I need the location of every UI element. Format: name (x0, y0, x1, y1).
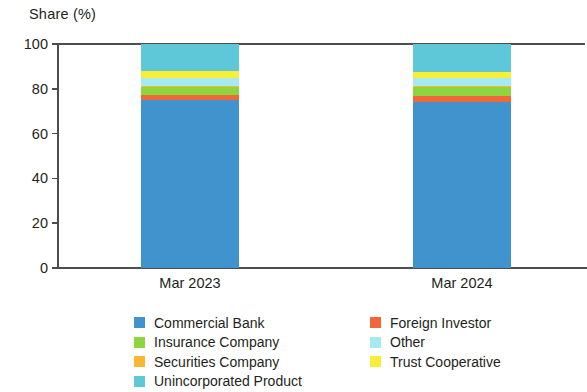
y-axis-tick-label: 60 (4, 126, 48, 142)
legend-swatch-icon (134, 317, 145, 328)
x-axis-tick-label: Mar 2024 (382, 275, 542, 291)
y-axis-tick-label: 80 (4, 81, 48, 97)
legend-item[interactable]: Other (370, 333, 574, 353)
bar-segment-trust-cooperative (141, 71, 239, 78)
y-axis-tick-label: 0 (4, 260, 48, 276)
bar-segment-commercial-bank (141, 100, 239, 268)
legend-swatch-icon (370, 356, 381, 367)
legend-column-right: Foreign InvestorOtherTrust Cooperative (370, 313, 574, 372)
legend-item[interactable]: Securities Company (134, 352, 364, 372)
legend-item-label: Securities Company (154, 355, 279, 369)
x-axis-tick-label: Mar 2023 (110, 275, 270, 291)
legend-item[interactable]: Foreign Investor (370, 313, 574, 333)
legend-item-label: Commercial Bank (154, 316, 264, 330)
bar-segment-insurance-company (413, 87, 511, 96)
legend-swatch-icon (134, 337, 145, 348)
y-axis-tick-label: 100 (4, 36, 48, 52)
bar-segment-insurance-company (141, 87, 239, 95)
bar-mar-2024 (413, 44, 511, 268)
legend-item-label: Trust Cooperative (390, 355, 501, 369)
bar-segment-other (141, 78, 239, 86)
y-axis-tick-label: 20 (4, 215, 48, 231)
legend-item[interactable]: Insurance Company (134, 333, 364, 353)
y-axis-tick-labels: 020406080100 (0, 0, 48, 392)
bar-segment-trust-cooperative (413, 72, 511, 78)
legend-swatch-icon (370, 337, 381, 348)
y-axis-tick (52, 178, 58, 180)
bar-segment-foreign-investor (413, 96, 511, 102)
legend-column-left: Commercial BankInsurance CompanySecuriti… (134, 313, 364, 391)
legend-item-label: Foreign Investor (390, 316, 491, 330)
y-axis-tick (52, 88, 58, 90)
bar-segment-securities-company (413, 86, 511, 87)
bar-segment-unincorporated-product (413, 44, 511, 72)
bar-segment-unincorporated-product (141, 44, 239, 71)
bar-segment-securities-company (141, 86, 239, 87)
bar-segment-other (413, 78, 511, 86)
legend-swatch-icon (134, 356, 145, 367)
y-axis-tick (52, 267, 58, 269)
y-axis-tick-label: 40 (4, 170, 48, 186)
legend-swatch-icon (370, 317, 381, 328)
y-axis-tick (52, 43, 58, 45)
legend-item-label: Unincorporated Product (154, 374, 302, 388)
legend-item[interactable]: Commercial Bank (134, 313, 364, 333)
stacked-bar-chart: Share (%) 020406080100 Commercial BankIn… (0, 0, 587, 392)
chart-legend: Commercial BankInsurance CompanySecuriti… (134, 313, 574, 391)
legend-item[interactable]: Unincorporated Product (134, 372, 364, 392)
y-axis-tick (52, 222, 58, 224)
y-axis-tick (52, 133, 58, 135)
legend-swatch-icon (134, 376, 145, 387)
bar-mar-2023 (141, 44, 239, 268)
legend-item-label: Other (390, 335, 425, 349)
bar-segment-commercial-bank (413, 102, 511, 268)
legend-item-label: Insurance Company (154, 335, 279, 349)
legend-item[interactable]: Trust Cooperative (370, 352, 574, 372)
bar-segment-foreign-investor (141, 95, 239, 100)
